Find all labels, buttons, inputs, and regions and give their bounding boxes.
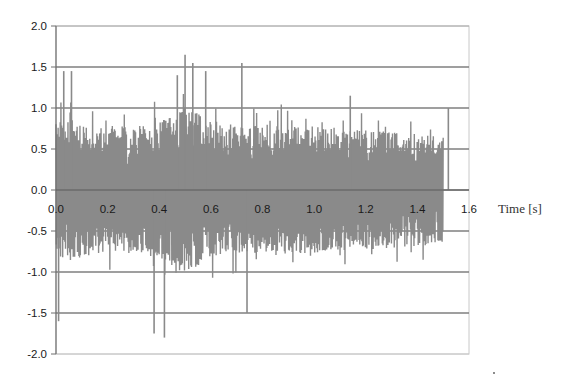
- x-tick-label: 1.0: [306, 203, 322, 215]
- y-tick-label: -1.5: [27, 307, 47, 319]
- x-axis-title: Time [s]: [498, 201, 542, 216]
- x-tick-label: 0.4: [151, 203, 168, 215]
- time-series-chart: ] 2.01.51.00.50.0-0.5-1.0-1.5-2.0 0.00.2…: [0, 0, 567, 378]
- x-axis-tick-labels: 0.00.20.40.60.81.01.21.41.6: [48, 203, 477, 215]
- y-tick-label: 0.0: [31, 184, 47, 196]
- y-tick-label: 1.0: [31, 102, 47, 114]
- x-tick-label: 1.2: [358, 203, 374, 215]
- x-tick-label: 0.2: [100, 203, 116, 215]
- x-tick-label: 1.6: [461, 203, 477, 215]
- x-tick-label: 0.8: [255, 203, 271, 215]
- y-tick-label: 1.5: [31, 61, 47, 73]
- y-tick-label: -0.5: [27, 225, 47, 237]
- x-tick-label: 1.4: [409, 203, 426, 215]
- x-tick-label: 0.0: [48, 203, 64, 215]
- y-tick-label: -1.0: [27, 266, 47, 278]
- y-tick-label: 0.5: [31, 143, 47, 155]
- x-tick-label: 0.6: [203, 203, 219, 215]
- stray-dot: [493, 372, 495, 374]
- y-tick-label: -2.0: [27, 348, 47, 360]
- y-tick-label: 2.0: [31, 20, 47, 32]
